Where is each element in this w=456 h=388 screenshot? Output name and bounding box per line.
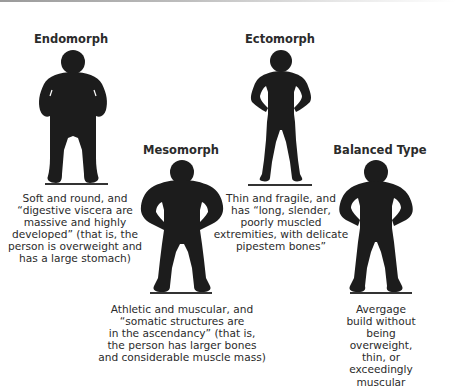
endomorph-title: Endomorph [34, 32, 108, 46]
mesomorph-ground-line [150, 292, 212, 294]
ectomorph-silhouette-icon [248, 50, 314, 183]
endomorph-description: Soft and round, and “digestive viscera a… [8, 192, 142, 265]
ectomorph-description: Thin and fragile, and has “long, slender… [214, 192, 349, 252]
balanced-type-silhouette-icon [336, 160, 416, 293]
endomorph-silhouette-icon [38, 50, 108, 184]
mesomorph-title: Mesomorph [143, 143, 219, 157]
balanced-type-description: Avergage build without being overweight,… [344, 303, 419, 388]
balanced-type-title: Balanced Type [333, 143, 426, 157]
mesomorph-description: Athletic and muscular, and “somatic stru… [98, 303, 266, 363]
balanced-type-ground-line [350, 292, 412, 294]
mesomorph-silhouette-icon [140, 160, 224, 293]
ectomorph-title: Ectomorph [245, 32, 315, 46]
top-border-line [0, 0, 456, 2]
endomorph-ground-line [45, 183, 108, 185]
ectomorph-ground-line [248, 184, 312, 186]
